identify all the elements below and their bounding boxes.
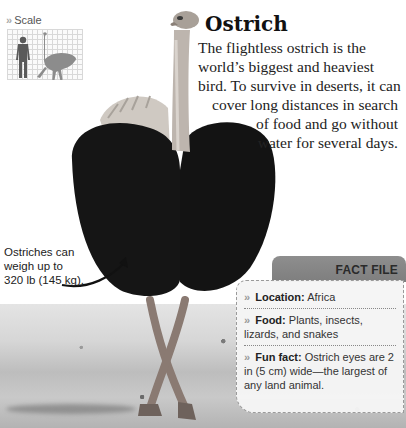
intro-line: of food and go without bbox=[198, 114, 398, 133]
fact-key: Food: bbox=[255, 314, 286, 326]
fact-value: Africa bbox=[305, 291, 336, 303]
fact-item-fun-fact: » Fun fact: Ostrich eyes are 2 in (5 cm)… bbox=[244, 345, 396, 396]
chevron-icon: » bbox=[244, 314, 250, 326]
chevron-icon: » bbox=[244, 291, 250, 303]
annotation-line: 320 lb (145 kg). bbox=[4, 273, 84, 287]
scale-grid bbox=[7, 29, 83, 80]
intro-line: The flightless ostrich is the bbox=[198, 38, 398, 57]
scale-label: »Scale bbox=[6, 14, 42, 26]
scale-label-text: Scale bbox=[14, 14, 42, 26]
intro-paragraph: The flightless ostrich is the world’s bi… bbox=[198, 38, 398, 152]
annotation-line: Ostriches can bbox=[4, 245, 84, 259]
annotation-line: weigh up to bbox=[4, 259, 84, 273]
fact-key: Fun fact: bbox=[255, 351, 301, 363]
ostrich-shadow bbox=[6, 404, 136, 414]
fact-key: Location: bbox=[255, 291, 305, 303]
chevron-icon: » bbox=[244, 351, 250, 363]
page-title: Ostrich bbox=[205, 12, 288, 36]
chevron-icon: » bbox=[6, 14, 12, 26]
human-vs-ostrich-scale-icon bbox=[7, 29, 83, 80]
intro-line: cover long distances in search bbox=[198, 95, 398, 114]
fact-file-box: » Location: Africa » Food: Plants, insec… bbox=[236, 280, 404, 413]
fact-file-title: FACT FILE bbox=[336, 263, 398, 277]
fact-item-food: » Food: Plants, insects, lizards, and sn… bbox=[244, 308, 396, 345]
intro-line: bird. To survive in deserts, it can bbox=[198, 76, 398, 95]
weight-annotation: Ostriches can weigh up to 320 lb (145 kg… bbox=[4, 245, 84, 287]
fact-item-location: » Location: Africa bbox=[244, 286, 396, 308]
intro-line: world’s biggest and heaviest bbox=[198, 57, 398, 76]
fact-file-tab: FACT FILE bbox=[272, 256, 406, 282]
intro-line: water for several days. bbox=[198, 133, 398, 152]
